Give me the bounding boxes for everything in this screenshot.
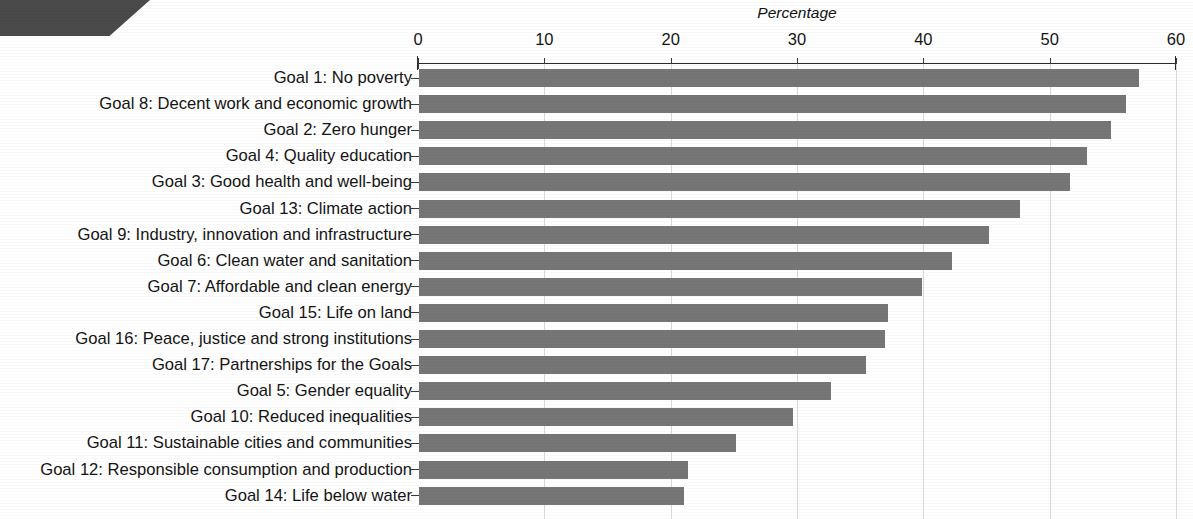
x-tick-label: 40 — [914, 30, 932, 49]
category-tick-mark — [411, 260, 419, 261]
bar — [419, 252, 952, 270]
x-axis-title: Percentage — [757, 4, 836, 22]
category-tick-mark — [411, 312, 419, 313]
bar — [419, 487, 684, 505]
category-tick-mark — [411, 156, 419, 157]
category-tick-mark — [411, 417, 419, 418]
bar-row: Goal 12: Responsible consumption and pro… — [0, 458, 1193, 484]
horizontal-bar-chart: Percentage 0102030405060 Goal 1: No pove… — [0, 0, 1193, 519]
bar-row: Goal 8: Decent work and economic growth — [0, 92, 1193, 118]
category-label: Goal 10: Reduced inequalities — [191, 407, 412, 427]
category-label: Goal 6: Clean water and sanitation — [157, 251, 412, 271]
bar — [419, 382, 831, 400]
bar-row: Goal 7: Affordable and clean energy — [0, 275, 1193, 301]
x-tick-label: 60 — [1167, 30, 1185, 49]
bar — [419, 278, 922, 296]
category-tick-mark — [411, 234, 419, 235]
category-label: Goal 5: Gender equality — [237, 381, 412, 401]
category-tick-mark — [411, 365, 419, 366]
category-tick-mark — [411, 339, 419, 340]
category-label: Goal 9: Industry, innovation and infrast… — [77, 225, 412, 245]
category-tick-mark — [411, 182, 419, 183]
bar-row: Goal 6: Clean water and sanitation — [0, 249, 1193, 275]
bar — [419, 95, 1126, 113]
category-tick-mark — [411, 286, 419, 287]
bar — [419, 461, 688, 479]
x-tick-label: 50 — [1040, 30, 1058, 49]
x-tick-label: 20 — [661, 30, 679, 49]
bar-row: Goal 11: Sustainable cities and communit… — [0, 431, 1193, 457]
bar — [419, 356, 866, 374]
bar-row: Goal 13: Climate action — [0, 197, 1193, 223]
bar-row: Goal 14: Life below water — [0, 484, 1193, 510]
category-label: Goal 14: Life below water — [225, 486, 412, 506]
bar — [419, 330, 885, 348]
category-label: Goal 11: Sustainable cities and communit… — [87, 433, 412, 453]
bar — [419, 408, 793, 426]
bar — [419, 69, 1139, 87]
category-label: Goal 16: Peace, justice and strong insti… — [75, 329, 412, 349]
bar-row: Goal 16: Peace, justice and strong insti… — [0, 327, 1193, 353]
category-label: Goal 17: Partnerships for the Goals — [152, 355, 412, 375]
bar-row: Goal 17: Partnerships for the Goals — [0, 353, 1193, 379]
x-tick-label: 30 — [788, 30, 806, 49]
category-tick-mark — [411, 78, 419, 79]
bar-row: Goal 9: Industry, innovation and infrast… — [0, 223, 1193, 249]
category-tick-mark — [411, 469, 419, 470]
bar — [419, 226, 989, 244]
bar — [419, 200, 1020, 218]
bar — [419, 147, 1087, 165]
bar-row: Goal 4: Quality education — [0, 144, 1193, 170]
category-tick-mark — [411, 208, 419, 209]
bar-row: Goal 10: Reduced inequalities — [0, 405, 1193, 431]
category-label: Goal 2: Zero hunger — [263, 120, 412, 140]
bar — [419, 173, 1070, 191]
bar-row: Goal 5: Gender equality — [0, 379, 1193, 405]
x-tick-label: 10 — [535, 30, 553, 49]
category-label: Goal 3: Good health and well-being — [152, 172, 412, 192]
category-tick-mark — [411, 443, 419, 444]
bar-row: Goal 1: No poverty — [0, 66, 1193, 92]
bar — [419, 304, 888, 322]
bar — [419, 434, 736, 452]
category-label: Goal 4: Quality education — [226, 146, 412, 166]
bar — [419, 121, 1111, 139]
category-tick-mark — [411, 130, 419, 131]
bar-row: Goal 2: Zero hunger — [0, 118, 1193, 144]
x-tick-label: 0 — [413, 30, 422, 49]
category-tick-mark — [411, 104, 419, 105]
category-label: Goal 8: Decent work and economic growth — [99, 94, 412, 114]
category-label: Goal 13: Climate action — [240, 199, 412, 219]
category-label: Goal 15: Life on land — [259, 303, 412, 323]
category-label: Goal 7: Affordable and clean energy — [148, 277, 412, 297]
category-tick-mark — [411, 391, 419, 392]
bar-row: Goal 3: Good health and well-being — [0, 170, 1193, 196]
bar-row: Goal 15: Life on land — [0, 301, 1193, 327]
category-label: Goal 12: Responsible consumption and pro… — [40, 460, 412, 480]
category-tick-mark — [411, 495, 419, 496]
category-label: Goal 1: No poverty — [274, 68, 412, 88]
